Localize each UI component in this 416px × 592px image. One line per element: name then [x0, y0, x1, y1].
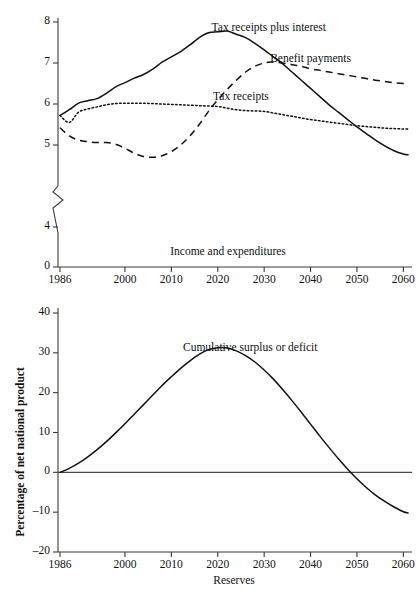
- bottom-chart-x-axis-title: Reserves: [213, 574, 255, 586]
- top-chart-axis-break-icon: [53, 186, 63, 233]
- figure-container: Percentage of net national product 04567…: [0, 0, 416, 592]
- bottom-chart-x-tick-label: 2040: [299, 558, 322, 570]
- series-label-tax-receipts: Tax receipts: [213, 90, 269, 102]
- bottom-chart-x-tick-label: 1986: [49, 558, 72, 570]
- top-chart-x-tick-label: 2030: [253, 273, 276, 285]
- top-chart-y-tick-label: 4: [44, 219, 50, 231]
- chart-svg: [0, 0, 416, 592]
- bottom-chart-x-tick-label: 2020: [206, 558, 229, 570]
- top-chart-x-tick-label: 2020: [206, 273, 229, 285]
- bottom-chart-y-tick-label: –10: [33, 504, 50, 516]
- bottom-chart-y-tick-label: 10: [39, 425, 51, 437]
- top-chart-x-tick-label: 1986: [49, 273, 72, 285]
- bottom-chart-x-tick-label: 2060: [392, 558, 415, 570]
- bottom-chart-x-tick-label: 2050: [345, 558, 368, 570]
- bottom-chart-y-tick-label: 20: [39, 385, 51, 397]
- series-line-benefit-payments: [60, 62, 408, 157]
- series-label-cumulative-surplus-or-deficit: Cumulative surplus or deficit: [183, 341, 317, 353]
- top-chart-caption: Income and expenditures: [170, 245, 286, 257]
- series-label-benefit-payments: Benefit payments: [270, 52, 351, 64]
- top-chart-x-tick-label: 2060: [392, 273, 415, 285]
- bottom-chart-y-tick-label: 40: [39, 305, 51, 317]
- top-chart-y-tick-label: 0: [44, 259, 50, 271]
- series-label-tax-receipts-plus-interest: Tax receipts plus interest: [212, 21, 326, 33]
- series-line-tax-receipts: [60, 103, 408, 129]
- bottom-chart-y-tick-label: –20: [33, 544, 50, 556]
- top-chart-y-tick-label: 5: [44, 137, 50, 149]
- top-chart-x-tick-label: 2050: [345, 273, 368, 285]
- top-chart-x-tick-label: 2040: [299, 273, 322, 285]
- bottom-chart-x-tick-label: 2000: [113, 558, 136, 570]
- bottom-chart-y-tick-label: 30: [39, 345, 51, 357]
- top-chart-group: [53, 18, 412, 272]
- bottom-chart-y-tick-label: 0: [44, 464, 50, 476]
- bottom-chart-x-tick-label: 2010: [160, 558, 183, 570]
- top-chart-y-tick-label: 6: [44, 96, 50, 108]
- bottom-chart-x-tick-label: 2030: [253, 558, 276, 570]
- top-chart-x-tick-label: 2010: [160, 273, 183, 285]
- top-chart-x-tick-label: 2000: [113, 273, 136, 285]
- top-chart-y-tick-label: 8: [44, 14, 50, 26]
- series-line-cumulative-surplus-or-deficit: [60, 348, 408, 513]
- top-chart-y-tick-label: 7: [44, 55, 50, 67]
